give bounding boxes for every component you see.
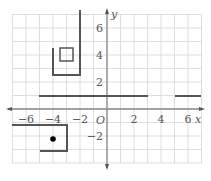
y-tick-label: 2 <box>96 76 103 89</box>
origin-label: O <box>96 114 105 127</box>
x-tick-label: −6 <box>18 113 34 126</box>
y-tick-label: −2 <box>87 130 103 143</box>
x-tick-label: 6 <box>185 113 192 126</box>
x-axis-label: x <box>195 113 202 126</box>
x-tick-label: −2 <box>72 113 88 126</box>
x-tick-label: −4 <box>45 113 61 126</box>
y-axis-label: y <box>110 8 118 21</box>
x-axis-left-arrow-icon <box>6 107 12 111</box>
axes <box>6 8 205 170</box>
x-tick-label: 4 <box>158 113 165 126</box>
y-tick-label: 6 <box>96 22 103 35</box>
y-tick-label: 4 <box>96 49 103 62</box>
x-axis-right-arrow-icon <box>199 107 205 111</box>
point-marker <box>50 136 56 142</box>
x-tick-label: 2 <box>131 113 138 126</box>
coordinate-plane: −6−4−2246 642−2 O x y <box>0 0 211 181</box>
y-axis-up-arrow-icon <box>105 8 109 14</box>
y-axis-down-arrow-icon <box>105 164 109 170</box>
